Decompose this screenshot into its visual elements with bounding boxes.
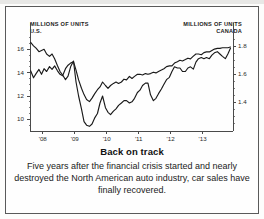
left-tick-label: 16 [8, 45, 24, 52]
caption-block: Back on track Five years after the finan… [10, 146, 254, 197]
caption-body: Five years after the financial crisis st… [10, 160, 254, 197]
right-tick-label: 1.8 [238, 42, 256, 49]
x-tick-label: '09 [65, 135, 85, 142]
chart-panel: MILLIONS OF UNITSU.S. MILLIONS OF UNITSC… [6, 7, 258, 139]
line-chart-svg [6, 7, 258, 139]
left-tick-label: 12 [8, 92, 24, 99]
series-line-canada [31, 47, 231, 102]
figure-container: MILLIONS OF UNITSU.S. MILLIONS OF UNITSC… [0, 0, 264, 219]
top-rule-divider [0, 0, 264, 4]
left-tick-label: 14 [8, 69, 24, 76]
series-group [31, 42, 231, 126]
caption-title: Back on track [10, 146, 254, 157]
right-tick-label: 1.6 [238, 70, 256, 77]
x-tick-label: '08 [33, 135, 53, 142]
left-tick-label: 10 [8, 115, 24, 122]
x-tick-label: '12 [161, 135, 181, 142]
right-tick-label: 1.4 [238, 98, 256, 105]
x-tick-label: '10 [97, 135, 117, 142]
x-tick-label: '13 [193, 135, 213, 142]
x-tick-label: '11 [129, 135, 149, 142]
